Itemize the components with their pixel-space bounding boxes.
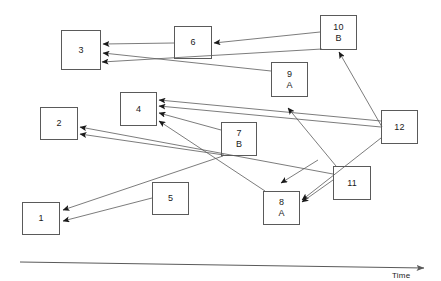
time-axis-line bbox=[20, 262, 424, 268]
time-axis-label: Time bbox=[392, 271, 410, 280]
node-label-primary: 6 bbox=[190, 37, 195, 48]
time-axis bbox=[20, 262, 424, 268]
node-label-primary: 5 bbox=[168, 193, 173, 204]
edge-arrow-7b-to-2 bbox=[80, 134, 224, 155]
edge-arrow-5-to-1 bbox=[63, 198, 152, 221]
edge-arrow-12-to-10 bbox=[339, 52, 382, 127]
node-label-secondary: B bbox=[236, 139, 242, 150]
node-box-7[interactable]: 7B bbox=[221, 122, 257, 156]
node-label-primary: 9 bbox=[287, 69, 292, 80]
node-box-11[interactable]: 11 bbox=[333, 166, 371, 200]
node-label-primary: 4 bbox=[136, 104, 141, 115]
edge-arrow-11b-to-mid2 bbox=[288, 108, 336, 166]
node-label-secondary: B bbox=[335, 33, 341, 44]
node-label-primary: 12 bbox=[394, 122, 404, 133]
node-box-10[interactable]: 10B bbox=[320, 15, 357, 50]
node-box-8[interactable]: 8A bbox=[263, 191, 300, 225]
edge-arrow-11-to-2 bbox=[80, 127, 333, 174]
edge-arrow-12-to-4b bbox=[159, 106, 381, 127]
node-box-12[interactable]: 12 bbox=[381, 110, 418, 144]
node-label-primary: 7 bbox=[236, 128, 241, 139]
node-box-2[interactable]: 2 bbox=[40, 107, 78, 140]
node-label-secondary: A bbox=[286, 80, 292, 91]
node-box-6[interactable]: 6 bbox=[174, 26, 212, 59]
node-box-9[interactable]: 9A bbox=[271, 62, 308, 97]
node-label-primary: 11 bbox=[347, 178, 357, 189]
edge-arrow-7c-to-1 bbox=[63, 156, 223, 210]
node-box-1[interactable]: 1 bbox=[22, 202, 60, 235]
node-label-primary: 3 bbox=[78, 45, 83, 56]
edge-arrow-9b-to-mid bbox=[281, 160, 318, 183]
edge-arrow-10-to-6 bbox=[214, 32, 320, 43]
edge-arrow-6-to-3 bbox=[103, 43, 174, 44]
edge-arrow-12-to-4 bbox=[159, 100, 381, 121]
node-label-primary: 2 bbox=[56, 118, 61, 129]
node-label-primary: 8 bbox=[279, 197, 284, 208]
diagram-canvas: 1234567B8A9A10B1112 Time bbox=[0, 0, 441, 281]
node-box-3[interactable]: 3 bbox=[61, 30, 101, 70]
node-label-primary: 10 bbox=[333, 22, 343, 33]
node-box-4[interactable]: 4 bbox=[120, 92, 157, 126]
edge-arrow-10-to-8 bbox=[102, 49, 322, 62]
edge-arrow-11-to-8 bbox=[302, 180, 333, 202]
node-label-secondary: A bbox=[278, 208, 284, 219]
node-label-primary: 1 bbox=[38, 213, 43, 224]
node-box-5[interactable]: 5 bbox=[152, 182, 189, 215]
